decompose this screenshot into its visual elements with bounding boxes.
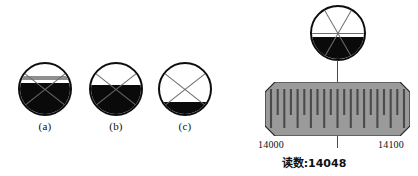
scale-group: 14000 14100 读数:14048 <box>210 0 418 176</box>
bubble-circle-c <box>158 62 212 116</box>
bubble-label-b: (b) <box>89 120 143 132</box>
scale-bar-svg <box>265 82 410 136</box>
micrometer-dial <box>310 5 366 61</box>
bubble-circle-a <box>18 62 72 116</box>
scale-label-max: 14100 <box>378 139 404 150</box>
bubble-label-c: (c) <box>158 120 212 132</box>
bubble-circle-b <box>89 62 143 116</box>
dial-spokes-icon <box>312 7 364 59</box>
figure-root: (a) (b) (c) <box>0 0 418 176</box>
bubble-item-b: (b) <box>89 62 149 142</box>
bubble-item-a: (a) <box>18 62 78 142</box>
scale-label-min: 14000 <box>258 139 284 150</box>
bubble-item-c: (c) <box>158 62 218 142</box>
bubble-crosshair-c <box>160 64 210 114</box>
bubble-group: (a) (b) (c) <box>0 0 210 176</box>
reading-label: 读数:14048 <box>210 154 418 170</box>
bubble-crosshair-a <box>20 64 70 114</box>
bubble-label-a: (a) <box>18 120 72 132</box>
scale-bar <box>265 82 410 136</box>
bubble-crosshair-b <box>91 64 141 114</box>
